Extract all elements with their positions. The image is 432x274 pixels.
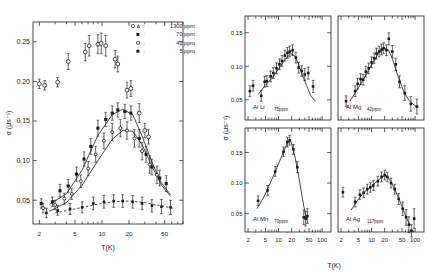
data-point-filled [296,166,299,169]
data-point-filled [354,201,357,204]
y-tick-label: 0.25 [16,38,30,45]
main-y-axis-label: σ (μs⁻¹) [5,111,13,136]
data-point-filled [397,198,400,201]
data-point-filled [269,75,272,78]
legend-colon: : [143,31,145,37]
x-tick-label: 10 [99,231,106,237]
y-tick-label: 0.15 [231,30,243,36]
data-point-filled [121,200,124,203]
panel-al-mg-label: Al Mg [346,104,361,110]
x-tick-label: 100 [410,237,421,243]
data-point-filled [252,84,255,87]
data-point-filled [151,204,154,207]
data-point-filled [158,177,161,180]
data-point-filled [365,70,368,73]
data-point-filled [369,186,372,189]
curve-fit-5ppm [55,201,173,213]
data-point-filled [295,56,298,59]
data-point-filled [129,112,132,115]
data-point-filled [405,216,408,219]
legend-label-0: 1300 ppm [170,23,195,29]
data-point-filled [403,92,406,95]
legend-marker-open-circle-small [136,41,139,44]
data-point-filled [103,201,106,204]
curve-fit-70ppm [50,109,171,204]
y-tick-label: 0.10 [231,64,243,70]
x-tick-label: 20 [381,237,388,243]
data-point-open [94,153,97,156]
data-point-open [87,44,91,48]
x-tick-label: 50 [306,237,313,243]
data-point-filled [408,223,411,226]
data-point-filled [165,182,168,185]
data-point-filled [272,72,275,75]
y-tick-label: 0.10 [16,157,30,164]
x-tick-label: 20 [126,231,133,237]
x-tick-label: 100 [317,237,328,243]
data-point-filled [391,50,394,53]
data-point-filled [116,108,119,111]
data-point-filled [138,137,141,140]
data-point-filled [82,157,85,160]
data-point-filled [375,52,378,55]
data-point-filled [284,54,287,57]
data-point-filled [112,200,115,203]
data-point-filled [266,80,269,83]
data-point-filled [372,184,375,187]
panel-al-mg-conc: 42ppm [367,107,381,112]
data-point-open [125,88,129,92]
data-point-filled [367,67,370,70]
data-point-open [56,80,60,84]
x-tick-label: 5 [357,237,361,243]
data-point-filled [394,63,397,66]
data-point-open [70,192,73,195]
legend-label-1: 70 ppm [176,31,195,37]
data-point-filled [306,215,309,218]
data-point-filled [386,176,389,179]
data-point-filled [169,206,172,209]
data-point-open [83,50,87,54]
data-point-filled [362,192,365,195]
y-tick-label: 0.15 [231,150,243,156]
data-point-filled [260,95,263,98]
data-point-filled [393,188,396,191]
data-point-filled [380,176,383,179]
figure-root: 251020500.050.100.150.200.25T(K)σ (μs⁻¹)… [0,0,432,274]
panel-al-ag-conc: 117ppm [367,219,383,224]
data-point-filled [249,90,252,93]
data-point-filled [288,50,291,53]
legend-marker-filled-square [136,33,139,36]
data-point-filled [286,52,289,55]
legend-colon: : [143,40,145,46]
data-point-filled [342,191,345,194]
data-point-filled [291,49,294,52]
data-point-open [116,62,120,66]
data-point-filled [292,148,295,151]
x-tick-label: 20 [288,237,295,243]
data-point-filled [266,189,269,192]
data-point-filled [58,189,61,192]
data-point-filled [89,145,92,148]
data-point-filled [45,212,48,215]
data-point-filled [131,201,134,204]
data-point-filled [362,78,365,81]
data-point-filled [104,118,107,121]
panel-al-mn-conc: 70ppm [274,219,288,224]
data-point-open [104,44,108,48]
data-point-filled [92,202,95,205]
data-point-filled [67,184,70,187]
data-point-filled [160,205,163,208]
data-point-filled [288,139,291,142]
data-point-filled [388,38,391,41]
data-point-filled [286,141,289,144]
main-panel-frame [33,22,183,224]
data-point-filled [282,151,285,154]
legend-marker-filled-square [136,50,139,53]
legend-marker-open-circle [131,24,134,27]
data-point-filled [398,80,401,83]
data-point-filled [281,60,284,63]
data-point-open [43,83,47,87]
panel-al-mn-fit-curve [257,140,307,220]
data-point-filled [413,217,416,220]
data-point-open [111,131,114,134]
